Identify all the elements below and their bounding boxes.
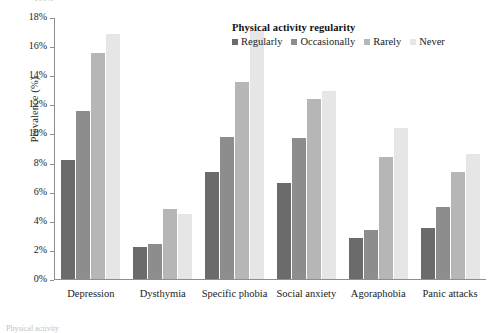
bar-group: Agoraphobia bbox=[342, 18, 414, 279]
bar-regularly[interactable] bbox=[349, 238, 363, 279]
x-axis-category-label: Dysthymia bbox=[140, 288, 186, 299]
legend-item-label: Never bbox=[419, 36, 445, 47]
bar-rarely[interactable] bbox=[307, 99, 321, 279]
bar-occasionally[interactable] bbox=[148, 244, 162, 279]
legend-item[interactable]: Never bbox=[410, 36, 445, 47]
legend-item[interactable]: Rarely bbox=[364, 36, 401, 47]
plot-area: 0%2%4%6%8%10%12%14%16%18% DepressionDyst… bbox=[54, 18, 486, 280]
legend-swatch-icon bbox=[410, 39, 416, 45]
y-tick-label: 16% bbox=[29, 40, 47, 51]
clipped-top-text: 100% bbox=[34, 0, 53, 3]
bar-occasionally[interactable] bbox=[436, 207, 450, 280]
bar-never[interactable] bbox=[178, 214, 192, 279]
y-tick-mark bbox=[50, 18, 54, 19]
bar-regularly[interactable] bbox=[421, 228, 435, 279]
bar-regularly[interactable] bbox=[61, 160, 75, 279]
x-axis-category-label: Panic attacks bbox=[422, 288, 477, 299]
y-tick-mark bbox=[50, 47, 54, 48]
bar-occasionally[interactable] bbox=[364, 230, 378, 279]
y-tick-label: 14% bbox=[29, 69, 47, 80]
bar-regularly[interactable] bbox=[133, 247, 147, 279]
legend-swatch-icon bbox=[232, 39, 238, 45]
y-tick-label: 4% bbox=[34, 215, 47, 226]
y-tick-mark bbox=[50, 280, 54, 281]
bar-rarely[interactable] bbox=[451, 172, 465, 279]
y-tick-mark bbox=[50, 222, 54, 223]
bar-rarely[interactable] bbox=[379, 157, 393, 279]
y-tick-label: 0% bbox=[34, 273, 47, 284]
legend-item[interactable]: Regularly bbox=[232, 36, 282, 47]
legend-swatch-icon bbox=[364, 39, 370, 45]
legend-item-label: Regularly bbox=[241, 36, 282, 47]
legend-swatch-icon bbox=[291, 39, 297, 45]
x-axis-category-label: Specific phobia bbox=[202, 288, 268, 299]
legend-title: Physical activity regularity bbox=[232, 22, 482, 33]
bar-never[interactable] bbox=[106, 34, 120, 279]
y-tick-mark bbox=[50, 134, 54, 135]
y-tick-label: 10% bbox=[29, 127, 47, 138]
bar-groups: DepressionDysthymiaSpecific phobiaSocial… bbox=[55, 18, 486, 279]
bar-regularly[interactable] bbox=[277, 183, 291, 279]
x-axis-category-label: Depression bbox=[67, 288, 114, 299]
bar-occasionally[interactable] bbox=[220, 137, 234, 279]
y-tick-mark bbox=[50, 76, 54, 77]
bar-rarely[interactable] bbox=[235, 82, 249, 279]
bar-rarely[interactable] bbox=[91, 53, 105, 279]
bar-never[interactable] bbox=[322, 91, 336, 280]
y-tick-mark bbox=[50, 193, 54, 194]
legend-item-label: Rarely bbox=[373, 36, 401, 47]
y-tick-label: 2% bbox=[34, 244, 47, 255]
bar-group: Panic attacks bbox=[414, 18, 486, 279]
x-axis-category-label: Agoraphobia bbox=[351, 288, 406, 299]
legend-items: RegularlyOccasionallyRarelyNever bbox=[232, 36, 482, 47]
y-tick-label: 18% bbox=[29, 11, 47, 22]
bar-group: Depression bbox=[55, 18, 127, 279]
bar-occasionally[interactable] bbox=[76, 111, 90, 279]
y-tick-label: 6% bbox=[34, 186, 47, 197]
y-tick-label: 12% bbox=[29, 98, 47, 109]
bar-group: Dysthymia bbox=[127, 18, 199, 279]
legend: Physical activity regularity RegularlyOc… bbox=[232, 22, 482, 47]
y-tick-mark bbox=[50, 105, 54, 106]
bar-never[interactable] bbox=[466, 154, 480, 279]
bar-rarely[interactable] bbox=[163, 209, 177, 279]
clipped-bottom-text: Physical activity bbox=[6, 324, 59, 333]
x-axis-category-label: Social anxiety bbox=[277, 288, 337, 299]
y-tick-mark bbox=[50, 251, 54, 252]
legend-item-label: Occasionally bbox=[300, 36, 355, 47]
bar-never[interactable] bbox=[250, 30, 264, 279]
bar-group: Specific phobia bbox=[199, 18, 271, 279]
x-axis-line bbox=[54, 279, 486, 280]
bar-occasionally[interactable] bbox=[292, 138, 306, 279]
y-tick-label: 8% bbox=[34, 157, 47, 168]
y-tick-mark bbox=[50, 164, 54, 165]
bar-never[interactable] bbox=[394, 128, 408, 279]
bar-regularly[interactable] bbox=[205, 172, 219, 279]
bar-group: Social anxiety bbox=[270, 18, 342, 279]
legend-item[interactable]: Occasionally bbox=[291, 36, 355, 47]
